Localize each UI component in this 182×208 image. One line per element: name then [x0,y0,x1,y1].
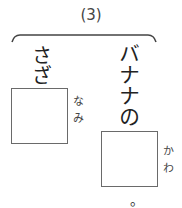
item-2-furigana: かわ [162,145,173,179]
item-2-word: バナナの [117,43,139,127]
item-2-answer-box[interactable] [101,131,158,187]
item-1-answer-box[interactable] [11,88,68,144]
brace-bracket [11,33,157,43]
item-1-furigana: なみ [72,95,83,129]
item-1-word: さざ [29,45,51,85]
item-2-period: 。 [130,189,144,208]
question-number: (3) [0,6,182,24]
